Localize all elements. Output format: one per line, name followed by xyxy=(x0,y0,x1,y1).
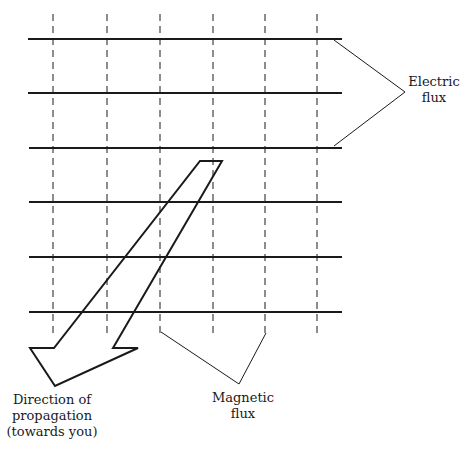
electric-flux-label: Electric flux xyxy=(400,74,467,106)
magnetic-flux-lines xyxy=(53,14,317,336)
electric-flux-leader xyxy=(334,40,405,146)
propagation-direction-label: Direction of propagation (towards you) xyxy=(2,392,102,440)
electric-flux-lines xyxy=(28,39,342,312)
magnetic-flux-label: Magnetic flux xyxy=(203,390,283,422)
em-wave-diagram xyxy=(0,0,467,449)
propagation-arrow xyxy=(30,161,222,386)
magnetic-flux-leader xyxy=(161,332,266,384)
